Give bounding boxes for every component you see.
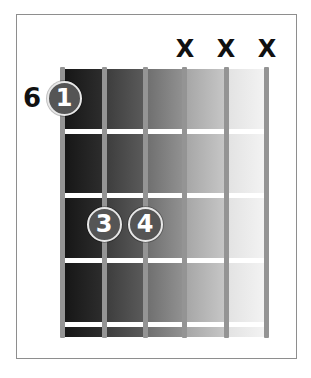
starting-fret-label: 6 [20, 84, 44, 112]
fretboard-column-5 [227, 69, 267, 337]
fret-1 [64, 129, 268, 134]
fret-2 [64, 193, 268, 198]
mute-marker-string-6: X [255, 38, 279, 60]
mute-marker-string-4: X [173, 38, 197, 60]
string-4 [182, 67, 187, 338]
fretboard-column-4 [186, 69, 227, 337]
string-2 [102, 67, 107, 338]
finger-dot-1: 1 [47, 81, 82, 116]
fretboard-column-2 [105, 69, 146, 337]
fretboard-column-3 [146, 69, 186, 337]
finger-dot-4: 4 [128, 207, 163, 242]
fret-3 [64, 258, 268, 263]
string-3 [143, 67, 148, 338]
mute-marker-string-5: X [214, 38, 238, 60]
chord-diagram: X X X 6 1 3 4 [0, 0, 311, 378]
string-5 [224, 67, 229, 338]
string-6 [264, 67, 269, 338]
fret-4 [64, 322, 268, 327]
finger-dot-3: 3 [87, 207, 122, 242]
